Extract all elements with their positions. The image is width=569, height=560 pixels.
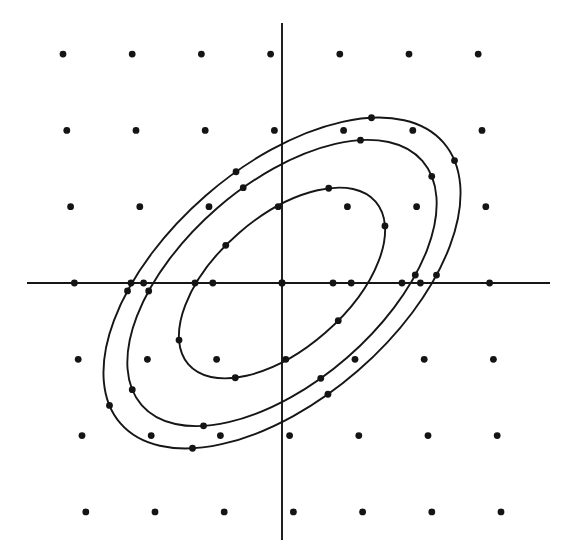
lattice-point	[217, 432, 224, 439]
curve-lattice-point	[124, 288, 131, 295]
curve-lattice-point	[382, 223, 389, 230]
lattice-point	[425, 432, 432, 439]
lattice-point	[148, 432, 155, 439]
lattice-point	[355, 432, 362, 439]
axis-lattice-point	[330, 280, 337, 287]
curve-lattice-point	[412, 272, 419, 279]
lattice-point	[344, 203, 351, 210]
curve-lattice-point	[451, 157, 458, 164]
lattice-point	[359, 509, 366, 516]
curve-lattice-point	[232, 374, 239, 381]
lattice-point	[133, 127, 140, 134]
axis-lattice-point	[192, 280, 199, 287]
curve-lattice-point	[240, 184, 247, 191]
lattice-ellipse-figure: Lattice points with three concentric til…	[0, 0, 569, 560]
lattice-point	[421, 356, 428, 363]
lattice-point	[213, 356, 220, 363]
lattice-point	[498, 509, 505, 516]
lattice-point	[479, 127, 486, 134]
curve-lattice-point	[200, 422, 207, 429]
lattice-point	[198, 51, 205, 58]
lattice-point	[475, 51, 482, 58]
axis-lattice-point	[399, 280, 406, 287]
curve-lattice-point	[368, 114, 375, 121]
lattice-point	[271, 127, 278, 134]
lattice-point	[221, 509, 228, 516]
lattice-point	[152, 509, 159, 516]
curve-lattice-point	[233, 168, 240, 175]
figure-background	[0, 0, 569, 560]
lattice-point	[144, 356, 151, 363]
curve-lattice-point	[129, 386, 136, 393]
curve-lattice-point	[222, 242, 229, 249]
lattice-point	[82, 509, 89, 516]
lattice-point	[63, 127, 70, 134]
figure-canvas	[0, 0, 569, 560]
lattice-point	[286, 432, 293, 439]
curve-lattice-point	[433, 272, 440, 279]
curve-lattice-point	[357, 137, 364, 144]
lattice-point	[79, 432, 86, 439]
curve-lattice-point	[325, 185, 332, 192]
lattice-point	[494, 432, 501, 439]
curve-lattice-point	[145, 288, 152, 295]
curve-lattice-point	[317, 375, 324, 382]
lattice-point	[60, 51, 67, 58]
lattice-point	[202, 127, 209, 134]
lattice-point	[336, 51, 343, 58]
lattice-point	[352, 356, 359, 363]
lattice-point	[428, 509, 435, 516]
lattice-point	[136, 203, 143, 210]
lattice-point	[75, 356, 82, 363]
lattice-point	[67, 203, 74, 210]
lattice-point	[290, 509, 297, 516]
lattice-point	[482, 203, 489, 210]
curve-lattice-point	[428, 173, 435, 180]
curve-lattice-point	[335, 317, 342, 324]
curve-lattice-point	[325, 391, 332, 398]
curve-lattice-point	[106, 402, 113, 409]
curve-lattice-point	[189, 445, 196, 452]
lattice-point	[406, 51, 413, 58]
lattice-point	[490, 356, 497, 363]
lattice-point	[340, 127, 347, 134]
origin-point	[279, 280, 286, 287]
axis-lattice-point	[128, 280, 135, 287]
lattice-point	[267, 51, 274, 58]
lattice-point	[206, 203, 213, 210]
lattice-point	[413, 203, 420, 210]
lattice-point	[129, 51, 136, 58]
lattice-point	[409, 127, 416, 134]
curve-lattice-point	[176, 337, 183, 344]
